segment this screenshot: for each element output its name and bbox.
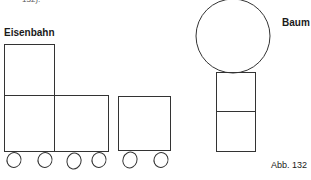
locomotive-rear-box	[55, 96, 109, 152]
figure-drawing	[0, 0, 311, 180]
wheel	[36, 151, 54, 170]
wagon-box	[119, 97, 171, 151]
trunk-upper	[217, 73, 256, 112]
wheel	[121, 150, 140, 170]
wheel	[152, 151, 170, 170]
locomotive-cab	[5, 45, 55, 96]
tree-crown	[196, 0, 270, 73]
trunk-lower	[217, 112, 256, 152]
tree-figure	[196, 0, 270, 152]
train-figure	[5, 45, 171, 171]
wheel	[90, 151, 108, 170]
wheel	[65, 151, 83, 170]
wheel	[5, 151, 23, 170]
locomotive-front-box	[5, 96, 55, 152]
